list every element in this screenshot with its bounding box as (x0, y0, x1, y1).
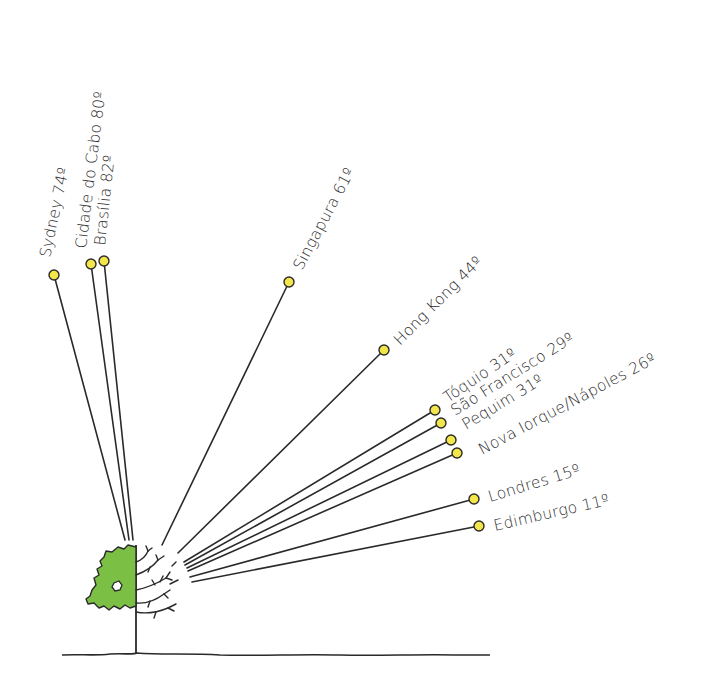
pin-cidade-do-cabo (86, 259, 96, 269)
pin-nova-iorque (452, 448, 462, 458)
tree-branches-winter (136, 546, 178, 618)
ray-nova-iorque (188, 448, 462, 571)
ray-brasilia (99, 256, 133, 540)
sun-angle-diagram: Sydney 74º Cidade do Cabo 80º Brasília 8… (0, 0, 711, 677)
pin-pequim (446, 435, 456, 445)
ray-pequim (187, 435, 456, 568)
label-hong-kong: Hong Kong 44º (390, 253, 486, 349)
pin-sydney (49, 270, 59, 280)
pin-singapura (284, 277, 294, 287)
pin-brasilia (99, 256, 109, 266)
pin-londres (469, 494, 479, 504)
pin-toquio (430, 405, 440, 415)
label-sydney: Sydney 74º (36, 166, 73, 259)
ray-sydney (49, 270, 125, 540)
pin-hong-kong (379, 345, 389, 355)
ground-line (62, 653, 490, 655)
label-singapura: Singapura 61º (290, 165, 359, 273)
pin-sao-francisco (436, 418, 446, 428)
pin-edimburgo (474, 521, 484, 531)
tree-foliage-summer (86, 545, 136, 610)
ray-toquio (184, 405, 440, 562)
